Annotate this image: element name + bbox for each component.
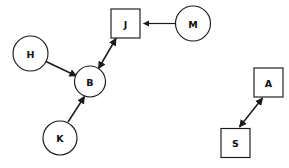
node-m-label: M xyxy=(188,19,198,30)
node-s[interactable]: S xyxy=(221,129,250,158)
node-j-label: J xyxy=(123,19,128,30)
node-m[interactable]: M xyxy=(176,6,211,41)
node-k-label: K xyxy=(56,133,64,144)
edge-h-to-b[interactable] xyxy=(46,62,77,77)
node-h[interactable]: H xyxy=(13,36,48,71)
node-h-label: H xyxy=(26,49,34,60)
node-b[interactable]: B xyxy=(75,66,106,97)
edge-s-to-a-bidirectional[interactable] xyxy=(240,98,263,127)
diagram-canvas: H B K J M A xyxy=(0,0,289,168)
node-j[interactable]: J xyxy=(111,9,140,38)
node-k[interactable]: K xyxy=(43,121,77,155)
node-s-label: S xyxy=(232,138,239,149)
edge-j-to-b-bidirectional[interactable] xyxy=(99,39,117,69)
node-layer: H B K J M A xyxy=(13,6,283,158)
graph-svg: H B K J M A xyxy=(0,0,289,168)
node-a-label: A xyxy=(265,78,273,89)
node-b-label: B xyxy=(86,77,93,88)
edge-k-to-b[interactable] xyxy=(68,97,85,123)
node-a[interactable]: A xyxy=(254,68,283,97)
